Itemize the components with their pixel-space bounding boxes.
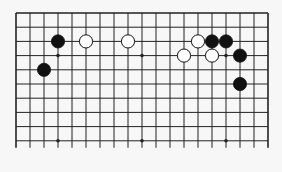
star-point [140,54,144,58]
go-board-diagram [0,0,282,172]
star-point [56,139,60,143]
go-board[interactable] [0,0,282,172]
white-stone[interactable] [177,49,190,62]
black-stone[interactable] [233,49,246,62]
black-stone[interactable] [37,63,50,76]
white-stone[interactable] [191,35,204,48]
board-grid [16,13,268,148]
star-point [224,139,228,143]
star-point [56,54,60,58]
black-stone[interactable] [205,35,218,48]
star-point [224,54,228,58]
white-stone[interactable] [205,49,218,62]
black-stone[interactable] [233,77,246,90]
black-stone[interactable] [51,35,64,48]
white-stone[interactable] [79,35,92,48]
black-stone[interactable] [219,35,232,48]
star-point [140,139,144,143]
white-stone[interactable] [121,35,134,48]
